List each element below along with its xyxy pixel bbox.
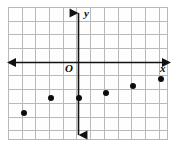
coordinate-plane-figure: y x O — [0, 0, 177, 158]
origin-label: O — [65, 63, 73, 74]
data-point — [103, 90, 109, 96]
grid-background — [8, 7, 168, 140]
y-axis-label: y — [84, 8, 89, 19]
x-axis-label: x — [160, 63, 166, 74]
data-point — [158, 76, 164, 82]
data-point — [21, 110, 27, 116]
data-point — [76, 95, 82, 101]
